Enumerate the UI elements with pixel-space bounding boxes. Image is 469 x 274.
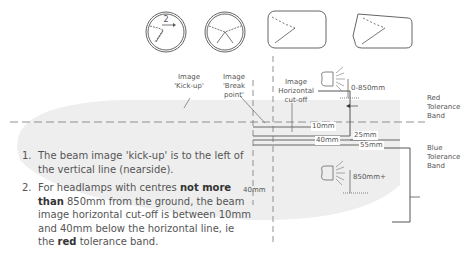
label-line: 'Kick-up' (168, 82, 210, 91)
label-line: cut-off (276, 96, 316, 105)
label-dim-55: 55mm (359, 141, 384, 150)
notes-list: 1. The beam image 'kick-up' is to the le… (22, 149, 252, 254)
label-line: Horizontal (276, 87, 316, 96)
trapezoid-lamp-icon (353, 14, 412, 48)
label-blue-band: Blue Tolerance Band (427, 144, 460, 171)
label-line: Image (276, 78, 316, 87)
round-lamp-left-icon: 2 (146, 12, 186, 52)
headlamp-low-icon (322, 67, 361, 98)
label-line: Tolerance (427, 103, 460, 112)
label-line: Red (427, 94, 460, 103)
label-dim-25: 25mm (353, 131, 378, 140)
label-dim-10: 10mm (311, 122, 336, 131)
label-lamp-low: 0-850mm (351, 84, 385, 93)
label-line: Tolerance (427, 153, 460, 162)
round-lamp-symmetric-icon (205, 12, 245, 52)
label-line: Image (216, 73, 252, 82)
label-break-point: Image 'Break point' (216, 73, 252, 100)
label-red-band: Red Tolerance Band (427, 94, 460, 121)
note-text: tolerance band. (76, 236, 158, 247)
label-dim-40: 40mm (315, 136, 340, 145)
note-item: 2. For headlamps with centres not more t… (22, 181, 252, 249)
note-number: 2. (22, 181, 32, 195)
label-line: 'Break (216, 82, 252, 91)
label-lamp-high: 850mm+ (353, 173, 386, 182)
svg-text:2: 2 (163, 15, 168, 24)
label-kick-up: Image 'Kick-up' (168, 73, 210, 91)
label-line: Band (427, 112, 460, 121)
note-emphasis-red: red (58, 236, 77, 247)
note-text: The beam image 'kick-up' is to the left … (38, 150, 243, 175)
note-item: 1. The beam image 'kick-up' is to the le… (22, 149, 252, 176)
label-line: point' (216, 91, 252, 100)
label-line: Blue (427, 144, 460, 153)
note-text: For headlamps with centres (38, 182, 180, 193)
label-line: Band (427, 162, 460, 171)
rect-lamp-icon (268, 11, 326, 48)
note-number: 1. (22, 149, 32, 163)
label-horizontal-cutoff: Image Horizontal cut-off (276, 78, 316, 105)
label-line: Image (168, 73, 210, 82)
